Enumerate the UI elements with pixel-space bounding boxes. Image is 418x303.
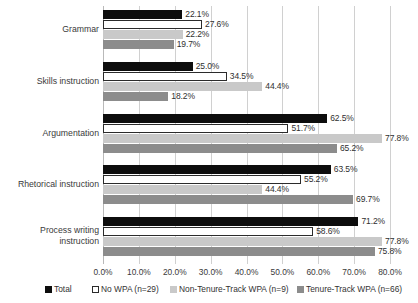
bar-row: 22.2% <box>103 30 418 39</box>
bar-row: 34.5% <box>103 72 418 81</box>
bar-group: 71.2%58.6%77.8%75.8% <box>103 217 418 257</box>
bar-row: 55.2% <box>103 175 418 184</box>
bar-row: 27.6% <box>103 20 418 29</box>
x-axis-tick-labels: 0.0%10.0%20.0%30.0%40.0%50.0%60.0%70.0%8… <box>103 266 390 279</box>
category-label: Argumentation <box>3 128 99 139</box>
bar[interactable] <box>103 165 331 174</box>
legend-item[interactable]: No WPA (n=29) <box>92 283 159 296</box>
category-label: Rhetorical instruction <box>3 179 99 190</box>
bar-value-label: 51.7% <box>291 122 315 134</box>
bar-row: 18.2% <box>103 92 418 101</box>
bar[interactable] <box>103 62 193 71</box>
bar-row: 65.2% <box>103 144 418 153</box>
bar-value-label: 75.8% <box>378 245 402 257</box>
bar-group: 25.0%34.5%44.4%18.2% <box>103 62 418 102</box>
bar-value-label: 34.5% <box>230 70 254 82</box>
x-tick-label: 20.0% <box>163 266 187 278</box>
legend-swatch-icon <box>92 286 99 293</box>
bar[interactable] <box>103 92 168 101</box>
bar-row: 44.4% <box>103 82 418 91</box>
bar[interactable] <box>103 237 382 246</box>
bar-row: 51.7% <box>103 124 418 133</box>
x-tick-label: 70.0% <box>342 266 366 278</box>
bar-row: 62.5% <box>103 114 418 123</box>
bar[interactable] <box>103 72 227 81</box>
bar-value-label: 44.4% <box>265 183 289 195</box>
legend-swatch-icon <box>170 286 177 293</box>
bar[interactable] <box>103 10 182 19</box>
bar-row: 77.8% <box>103 134 418 143</box>
bar-value-label: 62.5% <box>330 112 354 124</box>
legend-item[interactable]: Total <box>45 283 72 296</box>
bar-value-label: 55.2% <box>304 173 328 185</box>
bar-row: 77.8% <box>103 237 418 246</box>
bar-row: 58.6% <box>103 227 418 236</box>
category-label: Grammar <box>3 24 99 35</box>
legend-label: Total <box>54 283 72 296</box>
bar-chart: 22.1%27.6%22.2%19.7%25.0%34.5%44.4%18.2%… <box>0 0 418 303</box>
bar-row: 71.2% <box>103 217 418 226</box>
legend-item[interactable]: Non-Tenure-Track WPA (n=9) <box>170 283 289 296</box>
x-tick-label: 80.0% <box>378 266 402 278</box>
bar-group: 63.5%55.2%44.4%69.7% <box>103 165 418 205</box>
category-label: Skills instruction <box>3 76 99 87</box>
bar-value-label: 19.7% <box>177 38 201 50</box>
bar[interactable] <box>103 247 375 256</box>
x-tick-label: 60.0% <box>306 266 330 278</box>
bar-value-label: 63.5% <box>334 163 358 175</box>
bar-value-label: 44.4% <box>265 80 289 92</box>
legend-swatch-icon <box>45 286 52 293</box>
legend-label: Tenure-Track WPA (n=66) <box>306 283 402 296</box>
bar-value-label: 65.2% <box>340 142 364 154</box>
bar-row: 75.8% <box>103 247 418 256</box>
x-tick-label: 50.0% <box>271 266 295 278</box>
bar-group: 62.5%51.7%77.8%65.2% <box>103 114 418 154</box>
bar-row: 22.1% <box>103 10 418 19</box>
bar[interactable] <box>103 227 313 236</box>
bar[interactable] <box>103 144 337 153</box>
chart-legend: TotalNo WPA (n=29)Non-Tenure-Track WPA (… <box>0 283 418 299</box>
legend-item[interactable]: Tenure-Track WPA (n=66) <box>297 283 402 296</box>
bar[interactable] <box>103 195 353 204</box>
bar-value-label: 58.6% <box>316 225 340 237</box>
bar-value-label: 25.0% <box>196 60 220 72</box>
category-label: Process writing instruction <box>3 225 99 247</box>
legend-label: Non-Tenure-Track WPA (n=9) <box>179 283 289 296</box>
x-tick-label: 10.0% <box>127 266 151 278</box>
plot-area: 22.1%27.6%22.2%19.7%25.0%34.5%44.4%18.2%… <box>103 6 390 264</box>
legend-label: No WPA (n=29) <box>101 283 159 296</box>
bar-row: 19.7% <box>103 40 418 49</box>
bar-value-label: 18.2% <box>171 90 195 102</box>
bar[interactable] <box>103 40 174 49</box>
bar-value-label: 71.2% <box>361 215 385 227</box>
bar-value-label: 69.7% <box>356 193 380 205</box>
x-tick-label: 40.0% <box>235 266 259 278</box>
bar-row: 69.7% <box>103 195 418 204</box>
x-tick-label: 30.0% <box>199 266 223 278</box>
bar-value-label: 77.8% <box>385 132 409 144</box>
x-tick-label: 0.0% <box>93 266 112 278</box>
bar[interactable] <box>103 30 183 39</box>
bar-group: 22.1%27.6%22.2%19.7% <box>103 10 418 50</box>
bar-row: 63.5% <box>103 165 418 174</box>
bar[interactable] <box>103 185 262 194</box>
bar-row: 25.0% <box>103 62 418 71</box>
category-axis-labels: GrammarSkills instructionArgumentationRh… <box>0 6 99 264</box>
bar[interactable] <box>103 124 288 133</box>
legend-swatch-icon <box>297 286 304 293</box>
